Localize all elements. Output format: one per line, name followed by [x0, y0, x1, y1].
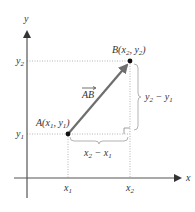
vector-ab: [68, 65, 127, 134]
vector-diagram: y x y2 y1 x1 x2 AB A(x1, y1) B(x2, y2) x…: [0, 0, 195, 212]
y-axis-label: y: [23, 13, 29, 24]
vertical-brace-label: y2 − y1: [144, 91, 173, 104]
vector-ab-label: AB: [81, 87, 96, 101]
y1-tick-label: y1: [15, 128, 24, 141]
x-axis-label: x: [185, 172, 191, 183]
vertical-brace: [134, 64, 141, 130]
svg-text:AB: AB: [81, 89, 94, 100]
point-a-label: A(x1, y1): [35, 117, 70, 130]
y2-tick-label: y2: [15, 55, 24, 68]
right-angle-marker: [124, 128, 130, 134]
point-b: [128, 59, 133, 64]
x2-tick-label: x2: [125, 182, 134, 195]
x1-tick-label: x1: [63, 182, 72, 195]
horizontal-brace-label: x2 − x1: [83, 147, 112, 160]
point-b-label: B(x2, y2): [112, 44, 146, 57]
point-a: [66, 132, 71, 137]
horizontal-brace: [70, 137, 128, 144]
